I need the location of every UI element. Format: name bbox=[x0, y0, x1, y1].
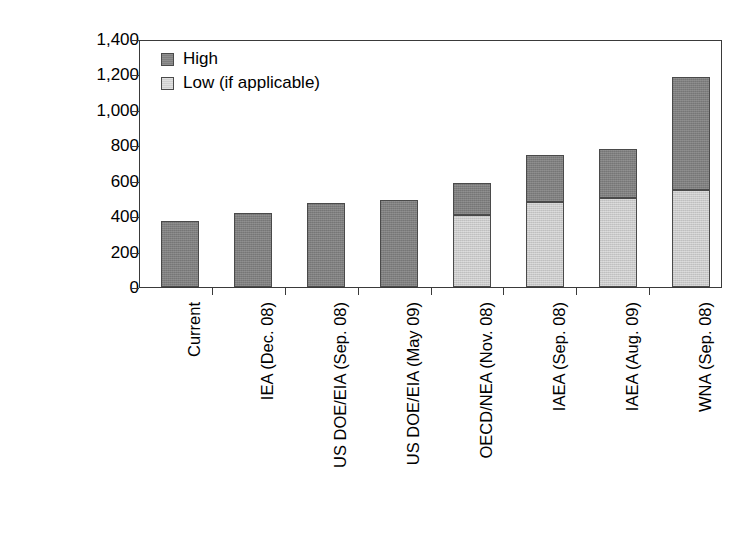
bar-segment-high[interactable] bbox=[526, 155, 564, 202]
x-category-label-text: US DOE/EIA (Sep. 08) bbox=[332, 302, 349, 468]
y-tick-label: 1,000 bbox=[69, 101, 139, 121]
x-tick-mark bbox=[431, 288, 432, 295]
bar-segment-high[interactable] bbox=[234, 213, 272, 287]
x-tick-mark bbox=[212, 288, 213, 295]
x-tick-mark bbox=[576, 288, 577, 295]
bar-segment-low[interactable] bbox=[453, 215, 491, 287]
x-tick-mark bbox=[503, 288, 504, 295]
y-tick-label: 1,400 bbox=[69, 30, 139, 50]
legend-item-label: High bbox=[183, 49, 218, 69]
y-tick-mark bbox=[132, 182, 139, 183]
x-category-label: Current bbox=[186, 302, 203, 357]
y-tick-mark bbox=[132, 217, 139, 218]
legend-item[interactable]: Low (if applicable) bbox=[161, 71, 320, 95]
y-tick-mark bbox=[132, 253, 139, 254]
bar-segment-high[interactable] bbox=[307, 203, 345, 287]
x-category-label: US DOE/EIA (May 09) bbox=[405, 302, 422, 465]
legend-item[interactable]: High bbox=[161, 47, 320, 71]
x-category-label: IAEA (Sep. 08) bbox=[551, 302, 568, 411]
x-tick-mark bbox=[358, 288, 359, 295]
y-tick-mark bbox=[132, 146, 139, 147]
y-tick-mark bbox=[132, 75, 139, 76]
bar-column[interactable] bbox=[380, 39, 418, 287]
bar-segment-low[interactable] bbox=[526, 202, 564, 287]
x-category-label: IAEA (Aug. 09) bbox=[624, 302, 641, 411]
x-category-label-text: WNA (Sep. 08) bbox=[697, 302, 714, 412]
x-category-label-text: IAEA (Aug. 09) bbox=[624, 302, 641, 411]
y-axis-ticks: 02004006008001,0001,2001,400 bbox=[62, 0, 139, 543]
y-tick-label: 800 bbox=[69, 136, 139, 156]
bar-column[interactable] bbox=[599, 39, 637, 287]
plot-area: HighLow (if applicable) bbox=[139, 40, 722, 288]
x-category-label: WNA (Sep. 08) bbox=[697, 302, 714, 412]
y-tick-label: 200 bbox=[69, 243, 139, 263]
bar-segment-high[interactable] bbox=[453, 183, 491, 216]
bar-segment-high[interactable] bbox=[161, 221, 199, 287]
legend-swatch-high-icon bbox=[161, 53, 174, 66]
x-tick-mark bbox=[649, 288, 650, 295]
x-category-label-text: IAEA (Sep. 08) bbox=[551, 302, 568, 411]
x-category-label: OECD/NEA (Nov. 08) bbox=[478, 302, 495, 458]
bar-column[interactable] bbox=[526, 39, 564, 287]
legend-item-label: Low (if applicable) bbox=[183, 73, 320, 93]
bar-column[interactable] bbox=[453, 39, 491, 287]
bar-segment-high[interactable] bbox=[380, 200, 418, 287]
y-tick-mark bbox=[132, 111, 139, 112]
y-tick-label: 400 bbox=[69, 207, 139, 227]
x-tick-mark bbox=[285, 288, 286, 295]
chart-page: Total capacity (GWe) 02004006008001,0001… bbox=[0, 0, 751, 543]
y-tick-label: 600 bbox=[69, 172, 139, 192]
x-category-label-text: OECD/NEA (Nov. 08) bbox=[478, 302, 495, 458]
y-tick-label: 1,200 bbox=[69, 65, 139, 85]
bar-segment-high[interactable] bbox=[599, 149, 637, 198]
bar-segment-low[interactable] bbox=[599, 198, 637, 287]
legend-swatch-low-icon bbox=[161, 77, 174, 90]
x-category-label-text: US DOE/EIA (May 09) bbox=[405, 302, 422, 465]
bar-column[interactable] bbox=[672, 39, 710, 287]
bar-segment-high[interactable] bbox=[672, 77, 710, 189]
chart-legend: HighLow (if applicable) bbox=[161, 47, 320, 95]
bar-segment-low[interactable] bbox=[672, 190, 710, 287]
y-tick-mark bbox=[132, 288, 139, 289]
x-category-label-text: IEA (Dec. 08) bbox=[259, 302, 276, 400]
y-tick-mark bbox=[132, 40, 139, 41]
x-category-label: IEA (Dec. 08) bbox=[259, 302, 276, 400]
x-category-label: US DOE/EIA (Sep. 08) bbox=[332, 302, 349, 468]
x-category-label-text: Current bbox=[186, 302, 203, 357]
y-tick-label: 0 bbox=[69, 278, 139, 298]
